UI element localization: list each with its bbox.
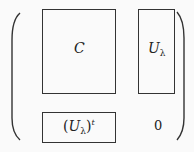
right-parenthesis [177, 12, 184, 140]
label-zero: 0 [154, 118, 162, 133]
label-u-lambda-transpose: (Uλ)t [63, 118, 95, 136]
left-parenthesis [12, 13, 20, 140]
label-c: C [74, 40, 85, 56]
label-u-lambda: Uλ [148, 40, 166, 58]
